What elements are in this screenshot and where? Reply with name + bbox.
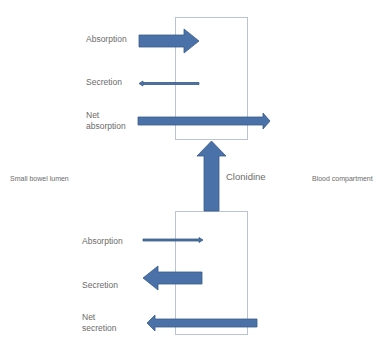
- top-net-absorption-line-2: absorption: [86, 121, 126, 132]
- top-net-absorption-label: Net absorption: [86, 110, 126, 132]
- clonidine-arrow-icon: [197, 141, 226, 211]
- top-net-absorption-arrow-icon: [138, 113, 270, 129]
- top-absorption-label: Absorption: [86, 34, 127, 45]
- top-absorption-arrow-icon: [139, 29, 199, 53]
- bottom-net-secretion-label: Net secretion: [82, 312, 117, 334]
- clonidine-label: Clonidine: [226, 171, 266, 183]
- arrows-layer: [0, 0, 386, 342]
- bottom-absorption-label: Absorption: [82, 236, 123, 247]
- small-bowel-lumen-label: Small bowel lumen: [10, 174, 69, 183]
- top-secretion-arrow-icon: [139, 81, 199, 86]
- blood-compartment-label: Blood compartment: [312, 174, 373, 183]
- bottom-net-secretion-arrow-icon: [147, 315, 257, 331]
- bottom-absorption-arrow-icon: [143, 238, 203, 243]
- bottom-net-secretion-line-1: Net: [82, 312, 117, 323]
- bottom-secretion-arrow-icon: [143, 266, 202, 290]
- top-secretion-label: Secretion: [86, 77, 122, 88]
- bottom-net-secretion-line-2: secretion: [82, 323, 117, 334]
- top-net-absorption-line-1: Net: [86, 110, 126, 121]
- bottom-secretion-label: Secretion: [82, 280, 118, 291]
